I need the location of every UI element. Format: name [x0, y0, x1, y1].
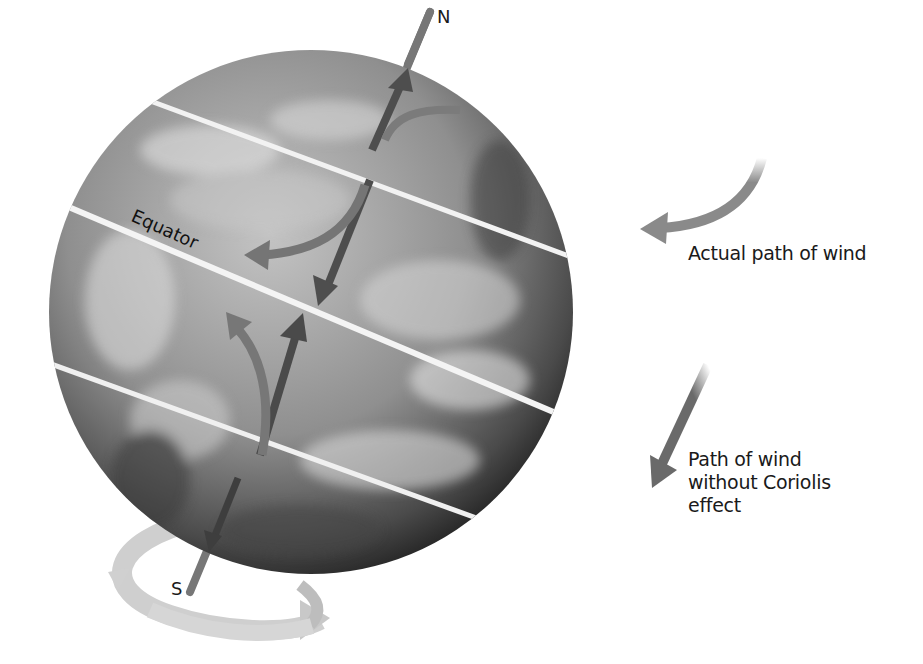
legend-actual-label: Actual path of wind — [688, 242, 866, 265]
legend-without-line-3: effect — [688, 494, 831, 517]
legend-actual-arrow-icon — [640, 158, 762, 244]
legend-without-label: Path of wind without Coriolis effect — [688, 448, 831, 517]
globe — [40, 50, 620, 574]
north-pole-label: N — [437, 6, 450, 27]
legend-without-line-2: without Coriolis — [688, 471, 831, 494]
south-pole-label: S — [171, 578, 182, 599]
diagram-canvas — [0, 0, 923, 664]
coriolis-diagram: N S Equator Actual path of wind Path of … — [0, 0, 923, 664]
legend-without-line-1: Path of wind — [688, 448, 831, 471]
north-pole-stub — [408, 12, 430, 64]
